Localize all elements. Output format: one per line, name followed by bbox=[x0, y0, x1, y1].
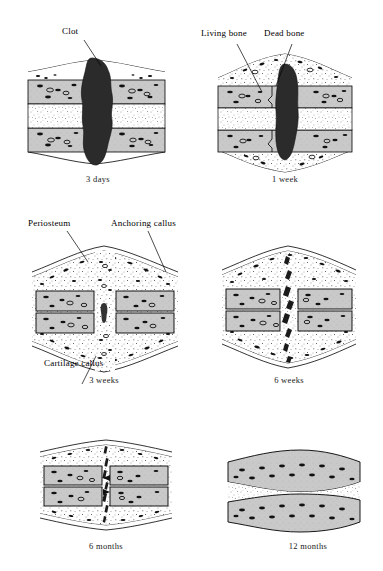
caption-three-weeks: 3 weeks bbox=[64, 375, 144, 385]
panel-one-week bbox=[218, 44, 352, 172]
label-clot: Clot bbox=[62, 26, 78, 36]
caption-twelve-months: 12 months bbox=[268, 541, 348, 551]
caption-six-months: 6 months bbox=[66, 541, 146, 551]
panel-six-months bbox=[40, 440, 172, 530]
caption-six-weeks: 6 weeks bbox=[249, 375, 329, 385]
panel-three-days bbox=[28, 40, 165, 165]
figure-canvas bbox=[0, 0, 383, 571]
label-living-bone: Living bone bbox=[201, 28, 247, 38]
label-dead-bone: Dead bone bbox=[264, 28, 305, 38]
caption-one-week: 1 week bbox=[245, 174, 325, 184]
caption-three-days: 3 days bbox=[58, 174, 138, 184]
panel-six-weeks bbox=[222, 246, 356, 368]
cortex-lower-remodeled bbox=[228, 494, 360, 532]
label-periosteum: Periosteum bbox=[28, 218, 71, 228]
panel-twelve-months bbox=[228, 450, 360, 532]
label-cartilage-callus: Cartilage callus bbox=[44, 358, 103, 368]
fracture-healing-figure: Clot Living bone Dead bone Periosteum An… bbox=[0, 0, 383, 571]
label-anchoring-callus: Anchoring callus bbox=[111, 218, 176, 228]
